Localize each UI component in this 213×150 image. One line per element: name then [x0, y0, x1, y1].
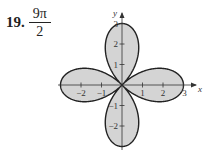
y-tick-label: 1 [114, 60, 119, 70]
x-tick-label: 1 [140, 88, 145, 98]
x-axis-arrow-icon [191, 83, 197, 88]
x-tick-label: 2 [161, 88, 166, 98]
x-tick-label: −1 [97, 88, 107, 98]
rose-curve-plot: −2−1123321−1−2 x y [0, 0, 213, 150]
x-tick-label: −2 [76, 88, 86, 98]
y-tick-label: −1 [108, 101, 118, 111]
y-axis-arrow-icon [120, 12, 125, 18]
y-tick-label: 3 [114, 19, 119, 29]
y-tick-label: −2 [108, 121, 118, 131]
y-tick-label: 2 [114, 39, 119, 49]
x-axis-label: x [197, 84, 202, 94]
x-tick-label: 3 [182, 88, 187, 98]
y-axis-label: y [112, 8, 117, 18]
